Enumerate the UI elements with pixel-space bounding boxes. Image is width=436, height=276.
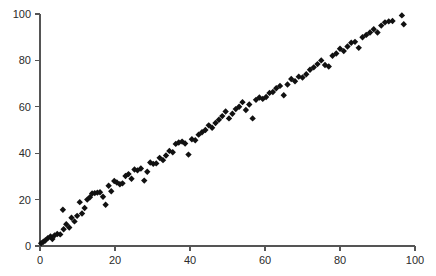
x-tick-label: 80 — [334, 254, 346, 266]
scatter-plot-figure: 020406080100020406080100 — [0, 0, 436, 276]
y-tick-label: 80 — [19, 54, 31, 66]
x-tick-label: 100 — [406, 254, 424, 266]
data-point — [399, 12, 405, 18]
plot-canvas: 020406080100020406080100 — [0, 0, 436, 276]
x-tick-label: 0 — [37, 254, 43, 266]
y-tick-label: 60 — [19, 101, 31, 113]
y-tick-label: 20 — [19, 194, 31, 206]
data-point — [356, 45, 362, 51]
data-point — [108, 188, 114, 194]
tick-labels-group: 020406080100020406080100 — [13, 8, 425, 266]
data-point — [401, 21, 407, 27]
data-point — [281, 92, 287, 98]
data-point — [81, 205, 87, 211]
data-points-group — [38, 12, 407, 246]
data-point — [144, 169, 150, 175]
data-point — [243, 107, 249, 113]
data-point — [60, 226, 66, 232]
data-point — [102, 202, 108, 208]
x-tick-label: 20 — [109, 254, 121, 266]
data-point — [239, 99, 245, 105]
data-point — [141, 177, 147, 183]
x-tick-label: 40 — [184, 254, 196, 266]
data-point — [185, 151, 191, 157]
data-point — [60, 207, 66, 213]
data-point — [105, 182, 111, 188]
data-point — [226, 115, 232, 121]
y-tick-label: 100 — [13, 8, 31, 20]
y-tick-label: 40 — [19, 147, 31, 159]
data-point — [284, 81, 290, 87]
data-point — [246, 101, 252, 107]
data-point — [389, 18, 395, 24]
y-tick-label: 0 — [25, 240, 31, 252]
data-point — [229, 111, 235, 117]
data-point — [77, 199, 83, 205]
x-tick-label: 60 — [259, 254, 271, 266]
data-point — [222, 108, 228, 114]
data-point — [249, 115, 255, 121]
